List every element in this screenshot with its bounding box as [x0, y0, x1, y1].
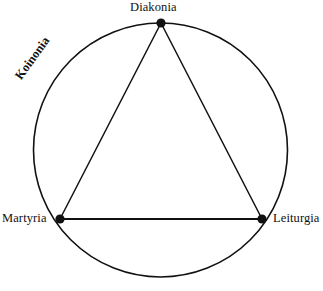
vertex-label-leiturgia: Leiturgia [273, 212, 320, 225]
triangle-edge-diakonia-leiturgia [161, 23, 262, 219]
outer-circle [34, 23, 288, 277]
vertex-label-diakonia: Diakonia [130, 1, 177, 14]
diagram-root: Diakonia Martyria Leiturgia Koinonia [0, 0, 323, 291]
triangle-edge-diakonia-martyria [60, 23, 161, 219]
vertex-label-martyria: Martyria [2, 212, 47, 225]
vertex-dot-leiturgia [257, 214, 266, 223]
vertex-dot-martyria [55, 214, 64, 223]
vertex-dot-diakonia [156, 18, 165, 27]
